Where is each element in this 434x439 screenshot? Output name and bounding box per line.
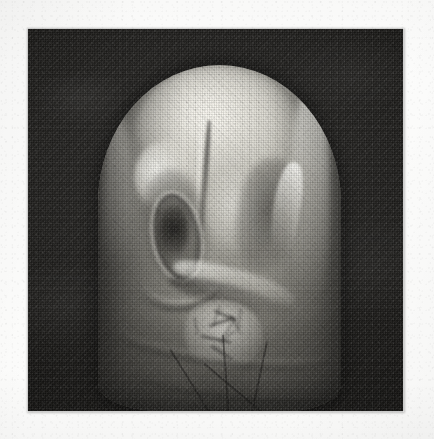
subject-base-shadow [98,314,341,411]
subject-container [28,29,403,411]
scanned-page [0,0,434,439]
dome-shaped-subject [98,65,341,411]
caption-area [0,413,434,439]
photograph-plate [28,29,403,411]
